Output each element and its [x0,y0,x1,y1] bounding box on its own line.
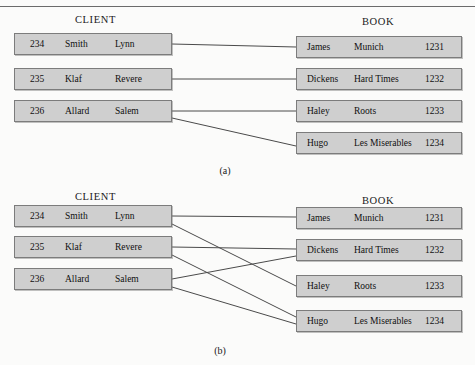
book-author: James [307,213,330,223]
client-first: Salem [115,106,139,116]
book-record-row[interactable]: James Munich 1231 [296,207,462,229]
book-record-row[interactable]: Haley Roots 1233 [296,100,462,122]
client-id: 236 [30,274,44,284]
client-id: 234 [30,39,44,49]
client-id: 236 [30,106,44,116]
book-record-row[interactable]: Dickens Hard Times 1232 [296,68,462,90]
client-column-title-a: CLIENT [75,14,116,25]
link-line [172,44,296,47]
book-title: Hard Times [354,74,399,84]
book-author: Dickens [307,245,338,255]
book-id: 1233 [425,281,444,291]
relationship-figure: CLIENT BOOK 234 Smith Lynn 235 Klaf Reve… [0,0,475,365]
client-first: Salem [115,274,139,284]
book-title: Munich [354,42,384,52]
link-line [172,256,296,279]
client-first: Revere [115,74,142,84]
book-column-title-b: BOOK [362,195,394,206]
client-id: 235 [30,242,44,252]
link-lines-a [0,0,475,185]
link-line [172,224,296,286]
link-line [172,255,296,317]
client-record-row[interactable]: 234 Smith Lynn [14,33,172,55]
book-id: 1234 [425,138,444,148]
client-record-row[interactable]: 236 Allard Salem [14,268,172,290]
book-title: Les Miserables [354,138,412,148]
client-column-title-b: CLIENT [75,191,116,202]
book-author: Hugo [307,316,328,326]
book-title: Les Miserables [354,316,412,326]
book-author: Haley [307,281,330,291]
client-last: Allard [65,106,89,116]
book-author: Dickens [307,74,338,84]
book-id: 1231 [425,42,444,52]
client-last: Smith [65,211,88,221]
client-last: Allard [65,274,89,284]
book-record-row[interactable]: Hugo Les Miserables 1234 [296,310,462,332]
panel-caption-b: (b) [200,345,240,356]
client-first: Revere [115,242,142,252]
client-first: Lynn [115,39,135,49]
book-id: 1231 [425,213,444,223]
book-record-row[interactable]: Dickens Hard Times 1232 [296,239,462,261]
book-id: 1232 [425,74,444,84]
book-id: 1234 [425,316,444,326]
link-line [172,118,296,146]
link-line [172,287,296,324]
book-author: James [307,42,330,52]
book-record-row[interactable]: James Munich 1231 [296,36,462,58]
panel-caption-a: (a) [205,165,245,176]
book-title: Roots [354,106,376,116]
link-line [172,216,296,217]
client-id: 234 [30,211,44,221]
client-record-row[interactable]: 235 Klaf Revere [14,68,172,90]
client-last: Klaf [65,74,82,84]
book-record-row[interactable]: Hugo Les Miserables 1234 [296,132,462,154]
book-column-title-a: BOOK [362,16,394,27]
book-title: Roots [354,281,376,291]
client-record-row[interactable]: 236 Allard Salem [14,100,172,122]
book-title: Hard Times [354,245,399,255]
client-record-row[interactable]: 235 Klaf Revere [14,236,172,258]
book-author: Hugo [307,138,328,148]
client-first: Lynn [115,211,135,221]
client-last: Klaf [65,242,82,252]
book-title: Munich [354,213,384,223]
book-record-row[interactable]: Haley Roots 1233 [296,275,462,297]
client-last: Smith [65,39,88,49]
book-id: 1232 [425,245,444,255]
link-line [172,247,296,249]
diagram-panel-b: CLIENT BOOK 234 Smith Lynn 235 Klaf Reve… [0,185,475,365]
client-record-row[interactable]: 234 Smith Lynn [14,205,172,227]
book-id: 1233 [425,106,444,116]
diagram-panel-a: CLIENT BOOK 234 Smith Lynn 235 Klaf Reve… [0,0,475,185]
client-id: 235 [30,74,44,84]
book-author: Haley [307,106,330,116]
